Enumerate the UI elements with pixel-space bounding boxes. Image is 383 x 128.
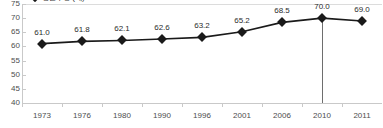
data-point-label: 68.5 <box>265 6 299 16</box>
data-point-label: 62.1 <box>105 24 139 34</box>
line-chart: 평균수명 (세) 7570656055504540 19731976198019… <box>0 0 383 128</box>
data-point-label: 70.0 <box>305 2 339 12</box>
data-point-label: 61.8 <box>65 25 99 35</box>
data-point-label: 63.2 <box>185 21 219 31</box>
data-point-label: 62.6 <box>145 23 179 33</box>
data-point-label: 69.0 <box>345 5 379 15</box>
drop-line-2010 <box>322 18 323 103</box>
data-point-label: 61.0 <box>25 28 59 38</box>
data-point-label: 65.2 <box>225 16 259 26</box>
